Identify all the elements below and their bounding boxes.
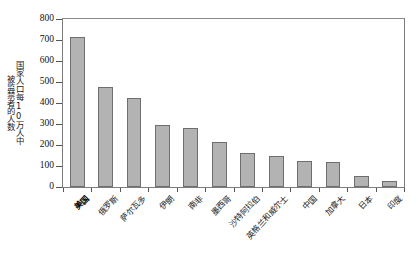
y-tick-label-wrap: 0	[20, 182, 54, 192]
x-tick-mark	[91, 188, 92, 192]
y-tick-mark	[56, 40, 62, 41]
bar	[269, 156, 284, 187]
x-tick-label[interactable]: 中国	[301, 194, 318, 211]
bar	[127, 98, 142, 187]
y-tick-label-wrap: 600	[20, 56, 54, 66]
x-tick-mark	[120, 188, 121, 192]
y-tick-label: 0	[24, 182, 54, 192]
x-tick-mark	[205, 188, 206, 192]
x-tick-label[interactable]: 日本	[357, 194, 374, 211]
x-tick-mark	[347, 188, 348, 192]
x-tick-mark	[376, 188, 377, 192]
y-tick-label-wrap: 200	[20, 140, 54, 150]
y-tick-label-wrap: 800	[20, 14, 54, 24]
bar	[240, 153, 255, 187]
y-tick-label: 600	[24, 56, 54, 66]
x-tick-mark	[262, 188, 263, 192]
y-tick-label: 100	[24, 161, 54, 171]
bar	[183, 128, 198, 187]
x-tick-mark	[63, 188, 64, 192]
bar-chart: 国家人口每10万人中 被监禁者的人数 010020030040050060070…	[0, 0, 418, 253]
y-tick-mark	[56, 145, 62, 146]
y-tick-label: 200	[24, 140, 54, 150]
y-tick-label-wrap: 700	[20, 35, 54, 45]
x-tick-label[interactable]: 印度	[386, 194, 403, 211]
bar	[382, 181, 397, 187]
y-tick-label: 300	[24, 119, 54, 129]
y-tick-label-wrap: 400	[20, 98, 54, 108]
y-tick-mark	[56, 103, 62, 104]
x-tick-mark	[404, 188, 405, 192]
y-tick-mark	[56, 82, 62, 83]
x-tick-label[interactable]: 伊朗	[159, 194, 176, 211]
x-tick-mark	[177, 188, 178, 192]
y-tick-mark	[56, 124, 62, 125]
x-tick-label[interactable]: 南非	[187, 194, 204, 211]
bars-container	[63, 19, 404, 187]
bar	[70, 37, 85, 187]
y-tick-mark	[56, 19, 62, 20]
x-tick-label[interactable]: 萨尔瓦多	[119, 194, 147, 223]
y-tick-label-wrap: 500	[20, 77, 54, 87]
x-tick-label[interactable]: 美国	[73, 194, 90, 211]
y-tick-label-wrap: 100	[20, 161, 54, 171]
x-tick-mark	[290, 188, 291, 192]
bar	[297, 161, 312, 187]
y-tick-label: 700	[24, 35, 54, 45]
bar	[98, 87, 113, 187]
bar	[212, 142, 227, 187]
x-tick-mark	[148, 188, 149, 192]
y-tick-label: 400	[24, 98, 54, 108]
bar	[326, 162, 341, 187]
x-tick-mark	[234, 188, 235, 192]
y-tick-mark	[56, 187, 62, 188]
x-tick-label[interactable]: 俄罗斯	[96, 194, 118, 217]
y-tick-mark	[56, 166, 62, 167]
y-tick-label-wrap: 300	[20, 119, 54, 129]
x-tick-label[interactable]: 加拿大	[324, 194, 346, 217]
x-tick-label[interactable]: 墨西哥	[210, 194, 232, 217]
bar	[155, 125, 170, 187]
y-tick-mark	[56, 61, 62, 62]
y-axis-title-line2: 被监禁者的人数	[5, 75, 14, 131]
y-tick-label: 800	[24, 14, 54, 24]
y-tick-label: 500	[24, 77, 54, 87]
bar	[354, 176, 369, 187]
x-tick-mark	[319, 188, 320, 192]
